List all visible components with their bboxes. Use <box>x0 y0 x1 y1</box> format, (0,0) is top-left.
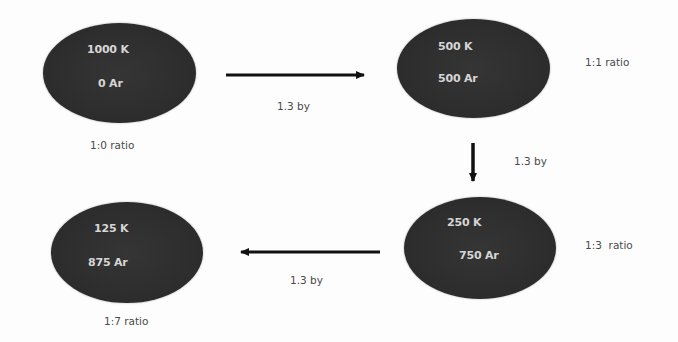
edge-3-label: 1.3 by <box>290 274 323 286</box>
node-250k-750ar: 250 K 750 Ar <box>404 197 556 299</box>
node-125k-875ar: 125 K 875 Ar <box>51 202 203 303</box>
node-500k-500ar: 500 K 500 Ar <box>397 19 550 118</box>
node-3-ratio-label: 1:3 ratio <box>585 239 633 251</box>
edge-2-label: 1.3 by <box>514 155 547 167</box>
node-1-ratio-label: 1:0 ratio <box>90 139 134 151</box>
node-1000k-0ar: 1000 K 0 Ar <box>43 23 196 123</box>
node-4-ratio-label: 1:7 ratio <box>104 315 148 327</box>
diagram-canvas: 1000 K 0 Ar 1:0 ratio 500 K 500 Ar 1:1 r… <box>0 0 678 342</box>
node-1-argon: 0 Ar <box>98 77 123 90</box>
node-3-argon: 750 Ar <box>459 249 499 262</box>
node-4-argon: 875 Ar <box>88 256 128 269</box>
node-2-potassium: 500 K <box>438 40 472 53</box>
node-4-potassium: 125 K <box>94 222 128 235</box>
node-1-potassium: 1000 K <box>87 43 129 56</box>
node-3-potassium: 250 K <box>447 216 481 229</box>
node-2-ratio-label: 1:1 ratio <box>585 56 629 68</box>
edge-1-label: 1.3 by <box>277 100 310 112</box>
node-2-argon: 500 Ar <box>438 72 478 85</box>
